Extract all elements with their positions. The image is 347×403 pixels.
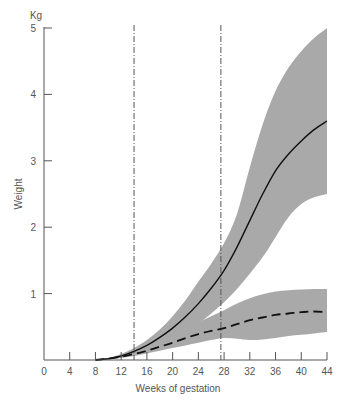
x-tick-label: 20 (167, 366, 179, 377)
x-tick-label: 4 (67, 366, 73, 377)
y-axis-unit: Kg (30, 10, 42, 21)
chart-canvas: 12345 048121620242832364044 Kg Weight We… (0, 0, 347, 403)
x-tick-label: 44 (321, 366, 333, 377)
y-tick-label: 2 (30, 222, 36, 233)
x-axis-ticks: 048121620242832364044 (41, 352, 333, 377)
x-tick-label: 16 (141, 366, 153, 377)
x-tick-label: 28 (219, 366, 231, 377)
x-axis-label: Weeks of gestation (136, 383, 221, 394)
y-tick-label: 4 (30, 89, 36, 100)
x-tick-label: 36 (270, 366, 282, 377)
x-tick-label: 40 (296, 366, 308, 377)
x-tick-label: 8 (93, 366, 99, 377)
x-tick-label: 0 (41, 366, 47, 377)
y-axis-ticks: 12345 (30, 23, 52, 300)
x-tick-label: 24 (193, 366, 205, 377)
y-axis-label: Weight (13, 178, 24, 209)
y-tick-label: 1 (30, 289, 36, 300)
x-tick-label: 32 (244, 366, 256, 377)
y-tick-label: 3 (30, 156, 36, 167)
growth-chart: 12345 048121620242832364044 Kg Weight We… (0, 0, 347, 403)
confidence-bands (96, 28, 328, 360)
y-tick-label: 5 (30, 23, 36, 34)
x-tick-label: 12 (116, 366, 128, 377)
